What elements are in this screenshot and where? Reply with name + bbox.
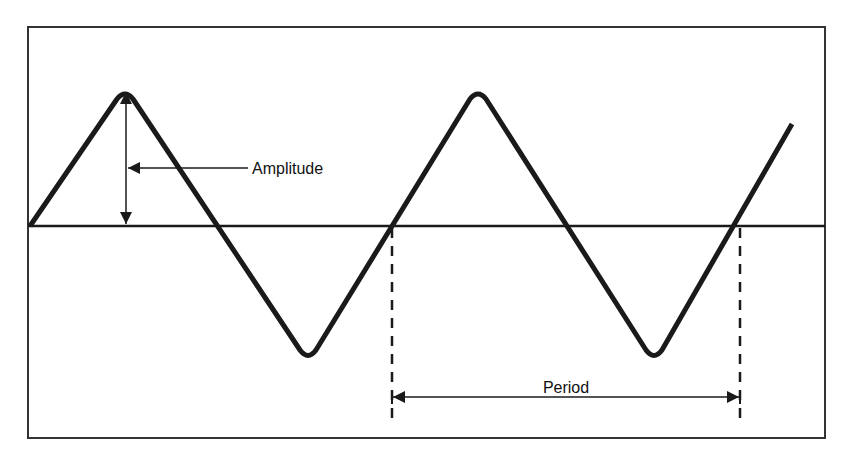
period-label: Period [543, 379, 589, 396]
amplitude-label: Amplitude [252, 160, 323, 177]
diagram-frame [28, 27, 825, 438]
waveform-diagram: Amplitude Period [0, 0, 851, 467]
